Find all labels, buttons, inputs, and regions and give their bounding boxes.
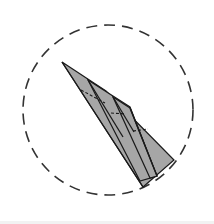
- bottom-strip: [0, 221, 214, 224]
- origami-diagram: [0, 0, 214, 224]
